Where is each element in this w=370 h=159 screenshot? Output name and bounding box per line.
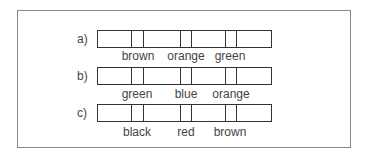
band-1-color-a: brown (122, 50, 155, 62)
band-1-right-edge (143, 31, 144, 47)
band-3-color-c: brown (214, 126, 247, 138)
band-1-color-c: black (123, 126, 151, 138)
band-1-right-edge (143, 68, 144, 84)
band-2-right-edge (191, 105, 192, 121)
row-label-b: b) (77, 70, 88, 82)
resistor-b (97, 67, 272, 85)
band-3-right-edge (236, 105, 237, 121)
band-3-left-edge (225, 68, 226, 84)
band-1-right-edge (143, 105, 144, 121)
band-1-color-b: green (122, 88, 153, 100)
band-3-left-edge (225, 31, 226, 47)
band-3-left-edge (225, 105, 226, 121)
band-1-left-edge (131, 31, 132, 47)
band-3-color-b: orange (212, 88, 249, 100)
band-3-right-edge (236, 31, 237, 47)
band-3-color-a: green (215, 50, 246, 62)
band-2-right-edge (191, 68, 192, 84)
resistor-a (97, 30, 272, 48)
band-2-right-edge (191, 31, 192, 47)
band-1-left-edge (131, 68, 132, 84)
band-2-left-edge (180, 68, 181, 84)
band-1-left-edge (131, 105, 132, 121)
band-3-right-edge (236, 68, 237, 84)
band-2-color-a: orange (167, 50, 204, 62)
row-label-a: a) (77, 33, 88, 45)
band-2-color-c: red (177, 126, 194, 138)
band-2-left-edge (180, 105, 181, 121)
band-2-color-b: blue (175, 88, 198, 100)
band-2-left-edge (180, 31, 181, 47)
resistor-c (97, 104, 272, 122)
row-label-c: c) (77, 107, 87, 119)
